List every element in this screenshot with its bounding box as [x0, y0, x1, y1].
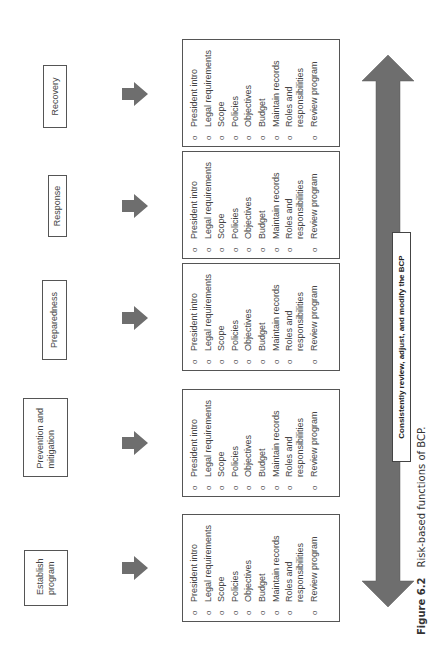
phase-checklist-establish: oPresident intro oLegal requirements oSc… [182, 514, 340, 622]
checklist-item: oLegal requirements [203, 519, 214, 615]
checklist-item: oRoles and responsibilities [284, 394, 306, 490]
checklist-item: oObjectives [243, 394, 254, 490]
cycle-banner-text: Consistently review, adjust, and modify … [397, 255, 406, 438]
phase-label-prevention: Prevention and mitigation [23, 398, 68, 477]
checklist-item: oObjectives [243, 156, 254, 252]
checklist-item: oLegal requirements [203, 44, 214, 140]
checklist-item: oPolicies [230, 156, 241, 252]
phase-label-text: Response [52, 186, 63, 227]
checklist-item: oObjectives [243, 519, 254, 615]
phase-label-preparedness: Preparedness [42, 280, 67, 360]
checklist-item: oRoles and responsibilities [284, 44, 306, 140]
checklist-item: oMaintain records [271, 394, 282, 490]
phase-label-response: Response [48, 175, 67, 237]
checklist-item: oBudget [257, 394, 268, 490]
checklist-item: oBudget [257, 268, 268, 364]
phase-label-text: Preparedness [49, 292, 60, 348]
checklist-item: oPolicies [230, 394, 241, 490]
down-arrow-icon [122, 431, 148, 455]
phase-label-text: Prevention and mitigation [35, 407, 57, 469]
down-arrow-icon [122, 82, 148, 106]
phase-label-text: Recovery [50, 78, 61, 116]
checklist-item: oBudget [257, 156, 268, 252]
checklist-item: oPresident intro [189, 268, 200, 364]
checklist-item: oBudget [257, 44, 268, 140]
checklist-item: oObjectives [243, 44, 254, 140]
checklist-item: oScope [216, 519, 227, 615]
phase-checklist-preparedness: oPresident intro oLegal requirements oSc… [182, 263, 340, 371]
checklist-item: oBudget [257, 519, 268, 615]
checklist-item: oScope [216, 156, 227, 252]
checklist-item: oLegal requirements [203, 268, 214, 364]
checklist-item: oReview program [309, 156, 320, 252]
checklist-item: oReview program [309, 268, 320, 364]
figure-caption: Figure 6.2Risk-based functions of BCP. [416, 426, 427, 635]
checklist-item: oMaintain records [271, 268, 282, 364]
checklist-item: oLegal requirements [203, 394, 214, 490]
down-arrow-icon [122, 556, 148, 580]
checklist-item: oReview program [309, 394, 320, 490]
phase-label-recovery: Recovery [43, 65, 67, 128]
checklist-item: oPolicies [230, 44, 241, 140]
checklist-item: oScope [216, 44, 227, 140]
phase-checklist-response: oPresident intro oLegal requirements oSc… [182, 151, 340, 259]
checklist-item: oRoles and responsibilities [284, 156, 306, 252]
figure-number: Figure 6.2 [416, 578, 427, 635]
checklist-item: oReview program [309, 44, 320, 140]
checklist-item: oRoles and responsibilities [284, 268, 306, 364]
checklist-item: oScope [216, 394, 227, 490]
phase-checklist-prevention: oPresident intro oLegal requirements oSc… [182, 389, 340, 497]
cycle-banner: Consistently review, adjust, and modify … [392, 232, 411, 462]
caption-text: Risk-based functions of BCP. [416, 426, 427, 567]
checklist-item: oPresident intro [189, 156, 200, 252]
phase-label-text: Establish program [35, 561, 57, 595]
checklist-item: oLegal requirements [203, 156, 214, 252]
checklist-item: oReview program [309, 519, 320, 615]
checklist-item: oMaintain records [271, 44, 282, 140]
checklist-item: oRoles and responsibilities [284, 519, 306, 615]
checklist-item: oMaintain records [271, 156, 282, 252]
down-arrow-icon [122, 306, 148, 330]
checklist-item: oPolicies [230, 268, 241, 364]
checklist-item: oPresident intro [189, 44, 200, 140]
checklist-item: oScope [216, 268, 227, 364]
checklist-item: oMaintain records [271, 519, 282, 615]
checklist-item: oObjectives [243, 268, 254, 364]
checklist-item: oPresident intro [189, 519, 200, 615]
down-arrow-icon [122, 194, 148, 218]
phase-checklist-recovery: oPresident intro oLegal requirements oSc… [182, 39, 340, 147]
checklist-item: oPresident intro [189, 394, 200, 490]
bcp-diagram: Establish program Prevention and mitigat… [0, 0, 434, 655]
checklist-item: oPolicies [230, 519, 241, 615]
phase-label-establish: Establish program [24, 550, 68, 606]
